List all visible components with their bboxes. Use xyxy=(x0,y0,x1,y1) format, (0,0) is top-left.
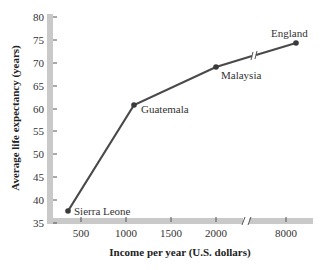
y-ticks xyxy=(53,17,57,223)
x-tick-labels: 500 1000 1500 2000 8000 xyxy=(73,227,298,239)
x-tick-label: 1000 xyxy=(115,227,138,239)
data-point-malaysia xyxy=(213,64,219,70)
y-tick-label: 45 xyxy=(33,171,45,183)
point-label-sierra-leone: Sierra Leone xyxy=(74,205,131,217)
y-tick-label: 65 xyxy=(33,80,45,92)
y-axis xyxy=(47,14,53,224)
x-tick-label: 1500 xyxy=(160,227,183,239)
data-point-england xyxy=(293,40,299,46)
y-tick-labels: 35 40 45 50 55 60 65 70 75 80 xyxy=(33,11,45,229)
y-tick-label: 40 xyxy=(33,194,45,206)
point-label-malaysia: Malaysia xyxy=(221,69,261,81)
x-tick-label: 500 xyxy=(73,227,90,239)
x-tick-label: 8000 xyxy=(275,227,298,239)
point-label-guatemala: Guatemala xyxy=(141,103,189,115)
data-point-sierra-leone xyxy=(65,208,71,214)
y-tick-label: 80 xyxy=(33,11,45,23)
x-axis-left-segment xyxy=(47,218,243,224)
data-line-after-break xyxy=(256,43,296,55)
x-axis-title: Income per year (U.S. dollars) xyxy=(109,246,251,259)
life-expectancy-chart: 35 40 45 50 55 60 65 70 75 80 500 1000 1… xyxy=(0,0,327,270)
x-axis-right-segment xyxy=(249,218,313,224)
data-point-guatemala xyxy=(131,102,137,108)
y-tick-label: 60 xyxy=(33,103,45,115)
y-tick-label: 75 xyxy=(33,34,45,46)
x-tick-label: 2000 xyxy=(205,227,228,239)
y-tick-label: 55 xyxy=(33,125,45,137)
y-tick-label: 70 xyxy=(33,57,45,69)
y-tick-label: 50 xyxy=(33,148,45,160)
y-tick-label: 35 xyxy=(33,217,45,229)
y-axis-title: Average life expectancy (years) xyxy=(9,45,22,191)
point-label-england: England xyxy=(271,27,308,39)
